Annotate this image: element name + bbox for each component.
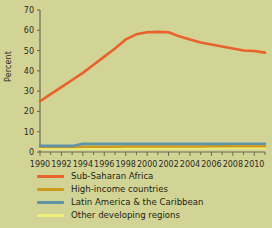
- y-tick-label: 60: [24, 26, 34, 35]
- line-chart-svg: 0102030405060701990199219941996199820002…: [0, 0, 272, 170]
- legend-item-label: Other developing regions: [71, 210, 180, 221]
- legend-swatch-icon: [37, 175, 64, 178]
- x-tick-label: 1990: [30, 160, 50, 169]
- y-axis-label: Percent: [4, 42, 13, 92]
- x-tick-label: 2010: [244, 160, 264, 169]
- x-tick-label: 1998: [116, 160, 136, 169]
- x-tick-label: 2008: [223, 160, 243, 169]
- x-tick-label: 2000: [137, 160, 157, 169]
- x-tick-label: 2002: [158, 160, 178, 169]
- legend-item-other-developing-regions: Other developing regions: [37, 209, 272, 222]
- plot-area: 0102030405060701990199219941996199820002…: [0, 0, 272, 170]
- y-tick-label: 40: [24, 67, 34, 76]
- y-tick-label: 30: [24, 87, 34, 96]
- legend-item-sub-saharan-africa: Sub-Saharan Africa: [37, 170, 272, 183]
- legend-swatch-icon: [37, 201, 64, 204]
- legend-item-high-income-countries: High-income countries: [37, 183, 272, 196]
- y-tick-label: 0: [29, 148, 34, 157]
- y-tick-label: 20: [24, 107, 34, 116]
- x-tick-label: 1996: [94, 160, 114, 169]
- chart-figure: 0102030405060701990199219941996199820002…: [0, 0, 272, 228]
- legend-item-label: Latin America & the Caribbean: [71, 197, 204, 208]
- legend-item-label: Sub-Saharan Africa: [71, 171, 153, 182]
- x-tick-label: 2004: [180, 160, 200, 169]
- x-tick-label: 1994: [73, 160, 93, 169]
- y-tick-label: 70: [24, 6, 34, 15]
- legend-item-label: High-income countries: [71, 184, 168, 195]
- y-tick-label: 50: [24, 47, 34, 56]
- series-line: [40, 32, 265, 101]
- legend-swatch-icon: [37, 214, 64, 217]
- x-tick-label: 1992: [51, 160, 71, 169]
- legend-item-latin-america-caribbean: Latin America & the Caribbean: [37, 196, 272, 209]
- x-tick-label: 2006: [201, 160, 221, 169]
- chart-legend: Sub-Saharan Africa High-income countries…: [0, 170, 272, 228]
- y-tick-label: 10: [24, 128, 34, 137]
- legend-swatch-icon: [37, 188, 64, 191]
